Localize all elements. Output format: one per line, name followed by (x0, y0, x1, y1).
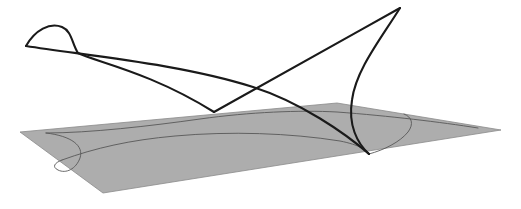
space-curve-figure (0, 0, 521, 209)
rising-branch-to-apex (214, 8, 400, 112)
upper-sweep-branch (26, 26, 214, 112)
projection-plane (20, 103, 501, 193)
figure-container (0, 0, 521, 209)
